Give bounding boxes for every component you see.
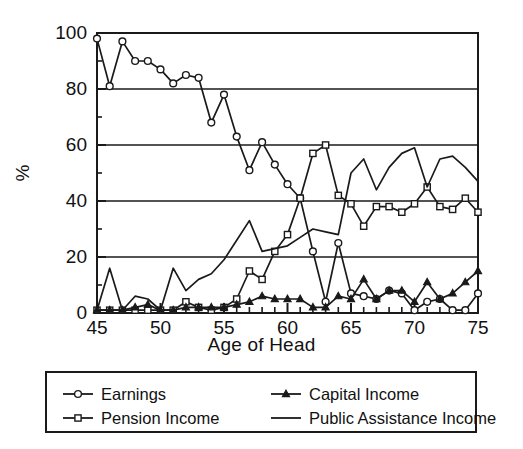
y-axis-title: %	[12, 164, 34, 181]
data-marker	[284, 181, 291, 188]
legend-label: Public Assistance Income	[309, 410, 496, 427]
data-marker	[411, 201, 417, 207]
data-marker	[373, 204, 379, 210]
data-marker	[348, 201, 354, 207]
series-public-assistance-income	[97, 148, 478, 310]
data-marker	[94, 35, 101, 42]
data-marker	[424, 298, 431, 305]
y-tick-label: 100	[35, 22, 87, 44]
y-tick-label: 80	[35, 78, 87, 100]
data-marker	[474, 267, 481, 274]
data-marker	[386, 204, 392, 210]
y-tick-label: 20	[35, 246, 87, 268]
y-tick-label: 60	[35, 134, 87, 156]
data-marker	[411, 307, 418, 314]
data-marker	[195, 74, 202, 81]
series-line	[97, 39, 478, 311]
data-marker	[450, 206, 456, 212]
data-marker	[475, 290, 482, 297]
legend-item[interactable]: Pension Income	[61, 407, 219, 429]
plot-frame	[97, 33, 478, 313]
data-marker	[335, 240, 342, 247]
data-marker	[335, 192, 341, 198]
data-marker	[132, 58, 139, 65]
data-marker	[424, 278, 431, 285]
legend-item[interactable]: Public Assistance Income	[269, 407, 496, 429]
data-marker	[75, 415, 81, 421]
data-marker	[106, 83, 113, 90]
data-marker	[462, 307, 469, 314]
data-marker	[157, 66, 164, 73]
data-marker	[221, 91, 228, 98]
data-marker	[360, 276, 367, 283]
data-marker	[119, 38, 126, 45]
legend-item[interactable]: Earnings	[61, 383, 166, 405]
data-marker	[437, 204, 443, 210]
legend-item[interactable]: Capital Income	[269, 383, 419, 405]
data-marker	[335, 292, 342, 299]
x-axis-title: Age of Head	[0, 334, 523, 356]
legend-marker-circle-icon	[61, 387, 95, 401]
legend-label: Capital Income	[309, 386, 419, 403]
legend-marker-none-icon	[269, 411, 303, 425]
data-marker	[475, 209, 481, 215]
data-marker	[183, 72, 190, 79]
series-line	[97, 148, 478, 310]
data-marker	[246, 167, 253, 174]
data-marker	[462, 195, 468, 201]
data-marker	[170, 80, 177, 87]
data-marker	[323, 142, 329, 148]
legend-label: Pension Income	[101, 410, 219, 427]
data-marker	[233, 133, 240, 140]
data-marker	[449, 307, 456, 314]
legend-marker-triangle-icon	[269, 387, 303, 401]
data-marker	[310, 150, 316, 156]
data-series-group	[93, 35, 481, 313]
data-marker	[75, 391, 82, 398]
data-marker	[310, 248, 317, 255]
data-marker	[297, 195, 303, 201]
data-marker	[259, 139, 266, 146]
data-marker	[144, 58, 151, 65]
data-marker	[361, 223, 367, 229]
data-marker	[399, 209, 405, 215]
y-tick-label: 40	[35, 190, 87, 212]
data-marker	[208, 119, 215, 126]
legend-label: Earnings	[101, 386, 166, 403]
axis-ticks	[97, 33, 478, 313]
data-marker	[284, 232, 290, 238]
data-marker	[271, 161, 278, 168]
chart-figure: 020406080100 45505560657075 Age of Head …	[0, 0, 523, 449]
data-marker	[145, 307, 151, 313]
data-marker	[246, 268, 252, 274]
legend-marker-square-icon	[61, 411, 95, 425]
data-marker	[259, 276, 265, 282]
data-marker	[259, 292, 266, 299]
chart-legend: EarningsCapital IncomePension IncomePubl…	[45, 371, 477, 433]
data-marker	[360, 293, 367, 300]
